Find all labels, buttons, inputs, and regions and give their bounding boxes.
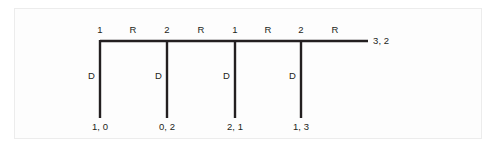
branch-action-label-3: D <box>223 71 230 81</box>
node-player-label-2: 2 <box>164 25 169 35</box>
branch-action-label-2: D <box>155 71 162 81</box>
spine-action-label-2: R <box>198 25 205 35</box>
terminal-payoff-label: 3, 2 <box>373 36 389 46</box>
node-player-label-4: 2 <box>298 25 303 35</box>
payoff-label-3: 2, 1 <box>227 122 243 132</box>
spine-action-label-1: R <box>130 25 137 35</box>
branch-action-label-4: D <box>289 71 296 81</box>
game-tree-canvas <box>0 0 500 153</box>
payoff-label-4: 1, 3 <box>293 122 309 132</box>
figure-root: 1 2 1 2 R R R R D D D D 1, 0 0, 2 2, 1 1… <box>0 0 500 153</box>
payoff-label-2: 0, 2 <box>159 122 175 132</box>
payoff-label-1: 1, 0 <box>92 122 108 132</box>
spine-action-label-4: R <box>332 25 339 35</box>
spine-action-label-3: R <box>265 25 272 35</box>
branch-group <box>100 40 301 118</box>
node-player-label-1: 1 <box>97 25 102 35</box>
branch-action-label-1: D <box>88 71 95 81</box>
node-player-label-3: 1 <box>232 25 237 35</box>
